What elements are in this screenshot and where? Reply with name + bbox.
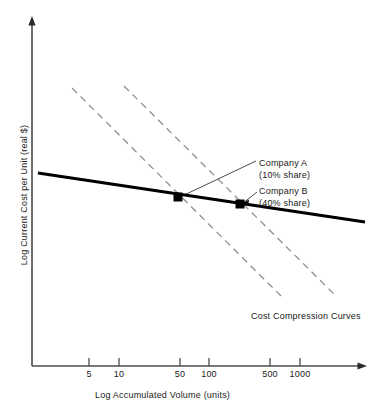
x-tick-label-10: 10: [99, 369, 139, 379]
cost-compression-curve-1: [72, 88, 281, 296]
x-axis-ticks: [89, 358, 300, 366]
annotation-company-a-share: (10% share): [259, 169, 310, 181]
experience-curve-chart: 5 10 50 100 500 1000 Log Accumulated Vol…: [0, 0, 380, 413]
annotation-company-b: Company B (40% share): [259, 185, 310, 209]
x-tick-label-1000: 1000: [280, 369, 320, 379]
annotation-company-b-share: (40% share): [259, 197, 310, 209]
y-axis-arrowhead: [28, 16, 35, 26]
marker-company-a: [174, 193, 183, 202]
y-axis: [28, 16, 35, 366]
annotation-cost-compression-curves: Cost Compression Curves: [251, 310, 361, 322]
x-axis-arrowhead: [358, 362, 368, 369]
y-axis-title: Log Current Cost per Unit (real $): [19, 95, 29, 295]
chart-canvas: [0, 0, 380, 413]
x-tick-label-100: 100: [189, 369, 229, 379]
industry-experience-curve: [38, 173, 365, 222]
leader-line-company-b: [243, 192, 257, 203]
x-axis-title: Log Accumulated Volume (units): [95, 390, 230, 400]
leader-line-company-a: [180, 161, 256, 197]
annotation-company-a: Company A (10% share): [259, 157, 310, 181]
annotation-company-b-name: Company B: [259, 185, 310, 197]
marker-company-b: [236, 200, 245, 209]
annotation-company-a-name: Company A: [259, 157, 310, 169]
